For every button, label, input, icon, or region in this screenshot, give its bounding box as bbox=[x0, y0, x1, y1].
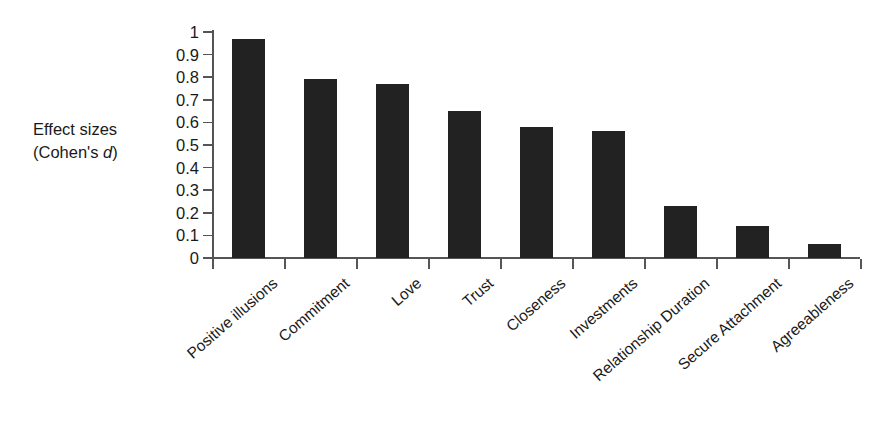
y-axis-tick bbox=[203, 122, 212, 124]
x-axis-tick bbox=[500, 259, 502, 269]
bar[interactable] bbox=[664, 206, 697, 258]
y-axis-title-suffix: ) bbox=[112, 143, 118, 161]
y-axis-tick-label: 0.9 bbox=[155, 47, 199, 64]
x-axis-tick bbox=[788, 259, 790, 269]
x-axis-category-label-wrap[interactable]: Trust bbox=[460, 275, 496, 309]
y-axis-tick bbox=[203, 76, 212, 78]
y-axis-tick bbox=[203, 54, 212, 56]
bar[interactable] bbox=[304, 79, 337, 258]
y-axis-tick-label: 0.6 bbox=[155, 114, 199, 131]
x-axis-tick bbox=[428, 259, 430, 269]
y-axis-tick-label: 1 bbox=[155, 24, 199, 41]
x-axis-category-label: Love bbox=[389, 275, 425, 309]
bar-chart-figure: Effect sizes (Cohen's d) 10.90.80.70.60.… bbox=[0, 0, 878, 441]
y-axis-title-line-1: Effect sizes bbox=[33, 120, 117, 138]
x-axis-tick bbox=[212, 259, 214, 269]
y-axis-tick bbox=[203, 212, 212, 214]
bar[interactable] bbox=[520, 127, 553, 258]
x-axis-category-label: Trust bbox=[460, 275, 496, 309]
y-axis-tick bbox=[203, 99, 212, 101]
y-axis-tick-label: 0.5 bbox=[155, 137, 199, 154]
x-axis-category-label-wrap[interactable]: Love bbox=[389, 275, 425, 309]
bar[interactable] bbox=[736, 226, 769, 258]
y-axis-tick-label: 0.7 bbox=[155, 92, 199, 109]
y-axis-tick bbox=[203, 257, 212, 259]
x-axis-category-label: Closeness bbox=[503, 275, 568, 334]
y-axis-tick bbox=[203, 31, 212, 33]
y-axis-tick-label: 0.8 bbox=[155, 69, 199, 86]
y-axis-tick-label: 0 bbox=[155, 250, 199, 267]
bar[interactable] bbox=[592, 131, 625, 258]
y-axis-tick bbox=[203, 144, 212, 146]
y-axis-tick-label: 0.3 bbox=[155, 182, 199, 199]
bar[interactable] bbox=[808, 244, 841, 258]
x-axis-tick bbox=[356, 259, 358, 269]
x-axis-tick bbox=[644, 259, 646, 269]
x-axis-tick bbox=[860, 259, 862, 269]
bar[interactable] bbox=[376, 84, 409, 258]
x-axis-category-label-wrap[interactable]: Investments bbox=[567, 275, 640, 342]
x-axis-tick bbox=[572, 259, 574, 269]
x-axis-category-label-wrap[interactable]: Commitment bbox=[276, 275, 352, 344]
y-axis-tick bbox=[203, 189, 212, 191]
x-axis-category-label-wrap[interactable]: Positive illusions bbox=[184, 275, 280, 361]
x-axis-category-label: Investments bbox=[567, 275, 640, 342]
y-axis-tick-label: 0.1 bbox=[155, 227, 199, 244]
x-axis-category-label: Positive illusions bbox=[184, 275, 280, 361]
bar[interactable] bbox=[448, 111, 481, 258]
y-axis-tick-label: 0.4 bbox=[155, 160, 199, 177]
x-axis-tick bbox=[284, 259, 286, 269]
x-axis-tick bbox=[716, 259, 718, 269]
y-axis-tick bbox=[203, 167, 212, 169]
cohens-d-symbol: d bbox=[103, 143, 112, 161]
y-axis-tick-label: 0.2 bbox=[155, 205, 199, 222]
x-axis-category-label-wrap[interactable]: Closeness bbox=[503, 275, 568, 334]
bar[interactable] bbox=[232, 39, 265, 258]
y-axis-title-prefix: (Cohen's bbox=[33, 143, 103, 161]
x-axis-category-label: Commitment bbox=[276, 275, 352, 344]
y-axis-tick bbox=[203, 235, 212, 237]
bars-group bbox=[212, 32, 860, 258]
